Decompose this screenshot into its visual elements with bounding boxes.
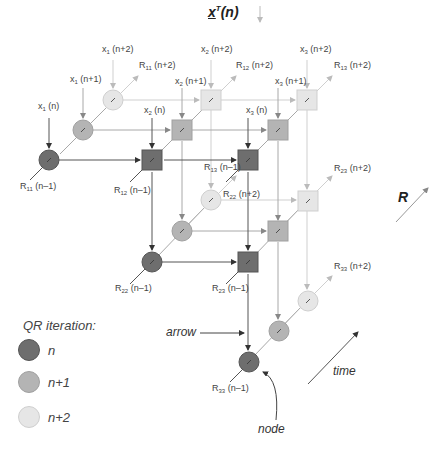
legend-label-n1: n+1 (48, 375, 70, 390)
output-r13-prev: R13 (n–1) (204, 163, 241, 173)
legend-item-n1: n+1 (18, 371, 70, 393)
legend-item-n2: n+2 (18, 406, 70, 428)
legend-label-n2: n+2 (48, 410, 70, 425)
input-x3-n1: x3 (n+1) (275, 77, 307, 87)
diagram-title: xT(n) (208, 4, 239, 20)
input-x2-n: x2 (n) (144, 106, 165, 116)
input-x1-n1: x1 (n+1) (70, 75, 102, 85)
nodes-n (39, 150, 259, 372)
output-r11-prev: R11 (n–1) (20, 182, 56, 192)
legend-item-n: n (18, 339, 55, 361)
annotation-arrow: arrow (166, 325, 196, 339)
output-r12-next: R12 (n+2) (236, 61, 273, 71)
node-pointer (263, 372, 277, 420)
title-vector: x (208, 4, 216, 20)
input-x3-n: x3 (n) (246, 106, 267, 116)
title-arg: (n) (221, 4, 239, 20)
output-r22-prev: R22 (n–1) (115, 284, 152, 294)
output-r33-next: R33 (n+2) (334, 262, 371, 272)
r-axis-label: R (398, 189, 408, 205)
output-r11-next: R11 (n+2) (139, 61, 176, 71)
output-r22-next: R22 (n+2) (223, 190, 260, 200)
legend-dot-dark-icon (18, 339, 40, 361)
annotation-node: node (258, 422, 285, 436)
output-r33-prev: R33 (n–1) (212, 384, 249, 394)
legend-dot-medium-icon (18, 371, 40, 393)
input-x3-n2: x3 (n+2) (300, 45, 332, 55)
legend-label-n: n (48, 343, 55, 358)
output-r23-prev: R23 (n–1) (212, 284, 249, 294)
output-r12-prev: R12 (n–1) (114, 186, 151, 196)
output-r13-next: R13 (n+2) (334, 61, 371, 71)
legend-title: QR iteration: (23, 318, 96, 333)
layer-n (30, 118, 248, 382)
annotation-time: time (333, 364, 356, 378)
output-r23-next: R23 (n+2) (334, 164, 371, 174)
input-x1-n2: x1 (n+2) (102, 45, 134, 55)
input-x1-n: x1 (n) (38, 102, 59, 112)
input-x2-n2: x2 (n+2) (201, 45, 233, 55)
input-x2-n1: x2 (n+1) (175, 77, 207, 87)
legend-dot-light-icon (18, 406, 40, 428)
